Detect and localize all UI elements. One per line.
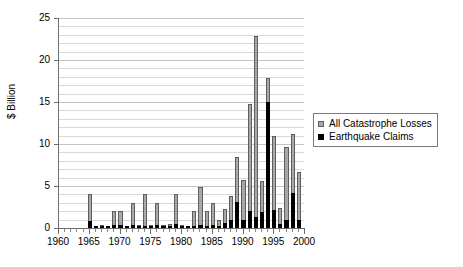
x-axis-tick-minor (224, 229, 225, 232)
y-axis-tick (54, 144, 58, 145)
legend-swatch-gray-icon (318, 121, 324, 127)
legend-label-earthquake-claims: Earthquake Claims (329, 131, 413, 142)
bar-segment-earthquake-claims (291, 193, 295, 228)
y-axis-tick-label: 15 (24, 97, 50, 107)
bar-group (143, 18, 147, 228)
x-axis-tick (89, 229, 90, 234)
x-axis-tick-minor (163, 229, 164, 232)
x-axis-tick-minor (83, 229, 84, 232)
x-axis-tick-minor (101, 229, 102, 232)
x-axis-tick-minor (261, 229, 262, 232)
bar-segment-all-catastrophe-losses (284, 147, 288, 228)
x-axis-tick (58, 229, 59, 234)
bar-group (131, 18, 135, 228)
bar-segment-all-catastrophe-losses (198, 187, 202, 228)
bar-group (254, 18, 258, 228)
x-axis-tick-minor (113, 229, 114, 232)
x-axis-tick-minor (156, 229, 157, 232)
x-axis-tick-minor (193, 229, 194, 232)
x-axis-tick-minor (236, 229, 237, 232)
x-axis-tick (150, 229, 151, 234)
bar-segment-all-catastrophe-losses (254, 36, 258, 228)
bar-group (297, 18, 301, 228)
bar-segment-earthquake-claims (248, 211, 252, 228)
y-axis-tick (54, 60, 58, 61)
bar-group (266, 18, 270, 228)
x-axis-tick-minor (64, 229, 65, 232)
bar-group (180, 18, 184, 228)
x-axis-tick-minor (107, 229, 108, 232)
bar-segment-earthquake-claims (229, 220, 233, 228)
x-axis-tick-minor (298, 229, 299, 232)
bar-group (248, 18, 252, 228)
bar-group (205, 18, 209, 228)
x-axis-tick-minor (138, 229, 139, 232)
x-axis-tick-minor (286, 229, 287, 232)
bar-segment-earthquake-claims (266, 102, 270, 228)
x-axis-tick (181, 229, 182, 234)
y-axis-line (58, 18, 59, 229)
legend-item-all-catastrophe-losses: All Catastrophe Losses (318, 117, 432, 130)
bar-segment-all-catastrophe-losses (143, 194, 147, 228)
bar-group (217, 18, 221, 228)
bar-segment-earthquake-claims (284, 220, 288, 228)
bar-group (125, 18, 129, 228)
bar-group (155, 18, 159, 228)
bar-group (291, 18, 295, 228)
bar-group (186, 18, 190, 228)
x-axis-tick (212, 229, 213, 234)
bar-segment-earthquake-claims (254, 217, 258, 228)
x-axis-tick (304, 229, 305, 234)
x-axis-tick-minor (230, 229, 231, 232)
legend-item-earthquake-claims: Earthquake Claims (318, 130, 432, 143)
bar-segment-all-catastrophe-losses (248, 104, 252, 228)
chart-legend: All Catastrophe Losses Earthquake Claims (313, 113, 438, 147)
x-axis-tick-minor (187, 229, 188, 232)
bar-group (278, 18, 282, 228)
x-axis-tick-minor (255, 229, 256, 232)
bar-segment-earthquake-claims (297, 220, 301, 228)
x-axis-tick-minor (95, 229, 96, 232)
bar-group (161, 18, 165, 228)
x-axis-tick-minor (218, 229, 219, 232)
x-axis-tick-minor (126, 229, 127, 232)
bar-group (192, 18, 196, 228)
bar-group (174, 18, 178, 228)
x-axis-tick-minor (206, 229, 207, 232)
x-axis-tick-minor (249, 229, 250, 232)
x-axis-tick-minor (132, 229, 133, 232)
bar-group (241, 18, 245, 228)
chart-container: $ Billion 0510152025 1960196519701975198… (0, 0, 463, 267)
bar-group (235, 18, 239, 228)
bar-group (149, 18, 153, 228)
y-axis-tick-label: 0 (24, 223, 50, 233)
bar-segment-earthquake-claims (241, 220, 245, 228)
y-axis-tick-label: 20 (24, 55, 50, 65)
bar-group (168, 18, 172, 228)
plot-area (58, 18, 304, 228)
bar-group (106, 18, 110, 228)
x-axis-tick-minor (169, 229, 170, 232)
x-axis-tick-minor (70, 229, 71, 232)
bar-group (260, 18, 264, 228)
bar-group (284, 18, 288, 228)
x-axis-tick-label: 2000 (284, 236, 324, 247)
x-axis-tick-minor (279, 229, 280, 232)
x-axis-tick-minor (267, 229, 268, 232)
bar-group (88, 18, 92, 228)
bar-group (198, 18, 202, 228)
y-axis-tick-label: 5 (24, 181, 50, 191)
y-axis-tick (54, 102, 58, 103)
x-axis-tick-minor (144, 229, 145, 232)
x-axis-tick-minor (76, 229, 77, 232)
bar-segment-earthquake-claims (235, 202, 239, 228)
y-axis-tick (54, 18, 58, 19)
y-axis-tick-label: 10 (24, 139, 50, 149)
bar-group (211, 18, 215, 228)
bar-group (94, 18, 98, 228)
y-axis-tick (54, 186, 58, 187)
legend-swatch-black-icon (318, 134, 324, 140)
y-axis-tick-label: 25 (24, 13, 50, 23)
bar-group (137, 18, 141, 228)
x-axis-tick (243, 229, 244, 234)
